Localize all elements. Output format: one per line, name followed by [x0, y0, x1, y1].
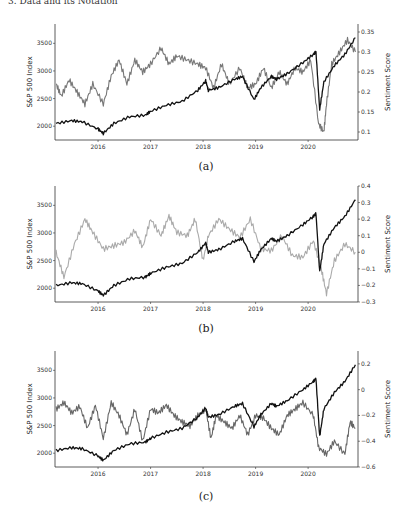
y-left-tick-label: 2500 — [37, 422, 52, 429]
page-header-fragment: 3. Data and its Notation — [8, 0, 118, 6]
x-tick-label: 2018 — [195, 470, 210, 477]
x-tick-label: 2017 — [143, 470, 158, 477]
y-left-tick-label: 2000 — [37, 449, 52, 456]
caption-c: (c) — [0, 490, 412, 503]
y-right-tick-label: 0.25 — [361, 68, 375, 75]
sentiment-line — [56, 37, 355, 131]
y-left-axis-title: S&P 500 Index — [26, 218, 34, 269]
y-left-tick-label: 2000 — [37, 122, 52, 129]
y-right-tick-label: 0.2 — [361, 360, 371, 367]
x-tick-label: 2020 — [300, 470, 315, 477]
caption-a: (a) — [0, 160, 412, 173]
x-tick-label: 2019 — [248, 143, 263, 150]
x-tick-label: 2016 — [90, 470, 105, 477]
chart-c-svg: 2000250030003500−0.6−0.4−0.200.220162017… — [0, 345, 412, 485]
y-right-tick-label: −0.4 — [361, 437, 376, 444]
y-left-tick-label: 2500 — [37, 95, 52, 102]
y-right-tick-label: 0 — [361, 248, 365, 255]
y-right-tick-label: 0.1 — [361, 128, 371, 135]
y-left-tick-label: 2500 — [37, 257, 52, 264]
y-right-tick-label: −0.2 — [361, 281, 376, 288]
y-right-axis-title: Sentiment Score — [384, 380, 392, 438]
y-right-tick-label: 0.4 — [361, 182, 371, 189]
y-left-tick-label: 2000 — [37, 284, 52, 291]
sp500-line — [56, 38, 355, 135]
y-right-tick-label: 0.2 — [361, 215, 371, 222]
x-tick-label: 2016 — [90, 143, 105, 150]
y-left-tick-label: 3500 — [37, 366, 52, 373]
y-right-tick-label: 0.15 — [361, 108, 375, 115]
y-right-tick-label: −0.2 — [361, 411, 376, 418]
y-right-tick-label: 0.2 — [361, 88, 371, 95]
y-right-tick-label: −0.6 — [361, 463, 376, 470]
chart-panel-b: 2000250030003500−0.3−0.2−0.100.10.20.30.… — [0, 180, 412, 320]
chart-panel-a: 20002500300035000.10.150.20.250.30.35201… — [0, 18, 412, 158]
x-tick-label: 2019 — [248, 470, 263, 477]
sentiment-line — [56, 214, 355, 296]
y-right-tick-label: 0.35 — [361, 28, 375, 35]
caption-b: (b) — [0, 322, 412, 335]
y-right-tick-label: 0.3 — [361, 48, 371, 55]
y-left-axis-title: S&P 500 Index — [26, 383, 34, 434]
x-tick-label: 2017 — [143, 305, 158, 312]
y-right-tick-label: −0.1 — [361, 265, 376, 272]
y-right-axis-title: Sentiment Score — [384, 53, 392, 111]
x-tick-label: 2020 — [300, 143, 315, 150]
y-left-axis-title: S&P 500 Index — [26, 56, 34, 107]
chart-panel-c: 2000250030003500−0.6−0.4−0.200.220162017… — [0, 345, 412, 485]
x-tick-label: 2017 — [143, 143, 158, 150]
y-left-tick-label: 3000 — [37, 229, 52, 236]
y-right-tick-label: 0.1 — [361, 232, 371, 239]
y-right-tick-label: 0.3 — [361, 199, 371, 206]
chart-b-svg: 2000250030003500−0.3−0.2−0.100.10.20.30.… — [0, 180, 412, 320]
x-tick-label: 2019 — [248, 305, 263, 312]
x-tick-label: 2016 — [90, 305, 105, 312]
y-left-tick-label: 3000 — [37, 67, 52, 74]
y-right-axis-title: Sentiment Score — [384, 215, 392, 273]
y-left-tick-label: 3000 — [37, 394, 52, 401]
x-tick-label: 2018 — [195, 305, 210, 312]
x-tick-label: 2020 — [300, 305, 315, 312]
chart-a-svg: 20002500300035000.10.150.20.250.30.35201… — [0, 18, 412, 158]
y-left-tick-label: 3500 — [37, 39, 52, 46]
y-right-tick-label: −0.3 — [361, 298, 376, 305]
x-tick-label: 2018 — [195, 143, 210, 150]
y-right-tick-label: 0 — [361, 386, 365, 393]
y-left-tick-label: 3500 — [37, 201, 52, 208]
